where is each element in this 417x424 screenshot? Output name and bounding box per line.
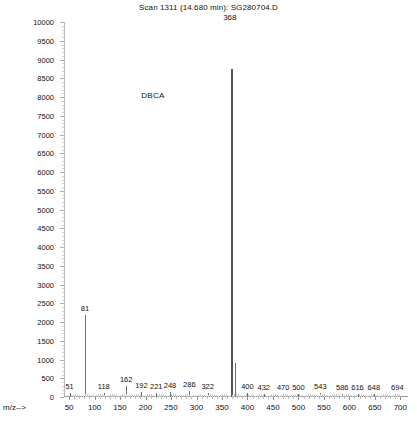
baseline-noise	[130, 396, 131, 397]
baseline-noise	[271, 394, 272, 397]
y-tick-minor	[62, 33, 64, 34]
baseline-noise	[167, 396, 168, 397]
y-tick	[60, 247, 64, 248]
x-tick-label: 150	[113, 403, 126, 412]
baseline-noise	[81, 396, 82, 397]
y-tick-minor	[62, 37, 64, 38]
x-tick-minor	[258, 397, 259, 399]
y-tick-minor	[62, 386, 64, 387]
y-tick-minor	[62, 56, 64, 57]
y-tick-label: 10000	[33, 18, 54, 27]
baseline-noise	[318, 395, 319, 397]
y-tick-label: 500	[41, 374, 54, 383]
baseline-noise	[324, 394, 325, 397]
baseline-noise	[155, 396, 156, 397]
baseline-noise	[153, 395, 154, 397]
x-tick	[171, 397, 172, 400]
y-tick-minor	[62, 243, 64, 244]
baseline-noise	[163, 394, 164, 397]
y-tick	[60, 322, 64, 323]
y-tick-minor	[62, 45, 64, 46]
y-tick-label: 9000	[37, 55, 54, 64]
baseline-noise	[265, 395, 266, 397]
x-tick	[146, 397, 147, 400]
baseline-noise	[389, 395, 390, 397]
y-tick-minor	[62, 202, 64, 203]
baseline-noise	[171, 394, 172, 397]
x-tick-minor	[263, 397, 264, 399]
baseline-noise	[381, 395, 382, 397]
y-tick-minor	[62, 296, 64, 297]
baseline-noise	[301, 395, 302, 397]
baseline-noise	[224, 394, 225, 397]
y-tick-minor	[62, 326, 64, 327]
baseline-noise	[304, 396, 305, 397]
baseline-noise	[151, 394, 152, 397]
baseline-noise	[134, 394, 135, 397]
baseline-noise	[92, 395, 93, 397]
x-tick-minor	[395, 397, 396, 399]
baseline-noise	[145, 395, 146, 397]
x-tick-label: 200	[139, 403, 152, 412]
baseline-noise	[393, 395, 394, 397]
y-tick	[60, 78, 64, 79]
base-peak-annotation: 368	[0, 13, 417, 22]
baseline-noise	[397, 394, 398, 397]
y-tick-minor	[62, 221, 64, 222]
baseline-noise	[216, 395, 217, 397]
baseline-noise	[83, 395, 84, 397]
baseline-noise	[291, 396, 292, 397]
y-tick-label: 5500	[37, 186, 54, 195]
y-tick-minor	[62, 217, 64, 218]
baseline-noise	[165, 395, 166, 397]
peak-label: 322	[201, 382, 214, 391]
baseline-noise	[195, 395, 196, 397]
peak-label: 586	[336, 383, 349, 392]
y-tick-minor	[62, 311, 64, 312]
y-tick-minor	[62, 165, 64, 166]
baseline-noise	[132, 395, 133, 397]
y-tick-minor	[62, 292, 64, 293]
y-tick-minor	[62, 236, 64, 237]
baseline-noise	[312, 394, 313, 397]
x-tick	[400, 397, 401, 400]
peak-label: 543	[314, 382, 327, 391]
x-tick-label: 450	[266, 403, 279, 412]
x-tick	[349, 397, 350, 400]
y-tick-minor	[62, 382, 64, 383]
y-tick	[60, 153, 64, 154]
y-tick-label: 1500	[37, 336, 54, 345]
baseline-noise	[85, 394, 86, 397]
x-tick	[69, 397, 70, 400]
baseline-noise	[147, 394, 148, 397]
baseline-noise	[283, 394, 284, 397]
baseline-noise	[285, 394, 286, 397]
baseline-noise	[369, 395, 370, 397]
y-tick	[60, 22, 64, 23]
x-tick-minor	[329, 397, 330, 399]
baseline-noise	[112, 394, 113, 397]
x-tick-label: 350	[215, 403, 228, 412]
y-tick-minor	[62, 356, 64, 357]
peak-label: 470	[277, 383, 290, 392]
y-tick-minor	[62, 375, 64, 376]
y-tick-minor	[62, 333, 64, 334]
baseline-noise	[340, 396, 341, 397]
baseline-noise	[181, 395, 182, 397]
baseline-noise	[246, 394, 247, 397]
baseline-noise	[326, 395, 327, 397]
x-tick	[298, 397, 299, 400]
y-tick-minor	[62, 352, 64, 353]
y-tick	[60, 378, 64, 379]
baseline-noise	[232, 395, 233, 397]
x-tick-minor	[385, 397, 386, 399]
y-tick-minor	[62, 300, 64, 301]
y-tick-minor	[62, 123, 64, 124]
baseline-noise	[149, 394, 150, 397]
y-tick-minor	[62, 330, 64, 331]
baseline-noise	[395, 394, 396, 397]
baseline-noise	[183, 395, 184, 397]
y-tick-label: 0	[50, 393, 54, 402]
x-tick-minor	[344, 397, 345, 399]
y-tick-label: 7000	[37, 130, 54, 139]
